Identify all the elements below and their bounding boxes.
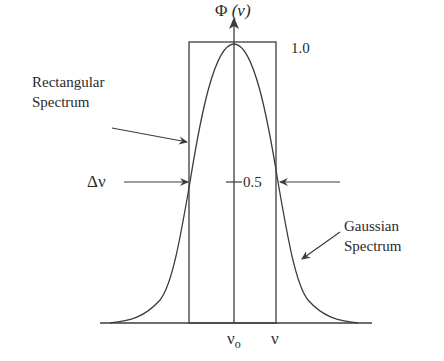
nu-label: ν	[271, 331, 279, 347]
phi-symbol: Φ	[215, 1, 227, 20]
phi-argument: (ν)	[232, 1, 251, 20]
rectangular-spectrum-label: Rectangular Spectrum	[32, 72, 104, 112]
gaussian-pointer-arrow	[302, 232, 340, 259]
diagram-canvas	[0, 0, 444, 361]
rectangular-label-line1: Rectangular	[32, 72, 104, 92]
delta-nu-label: Δν	[87, 174, 106, 190]
gaussian-label-line1: Gaussian	[344, 216, 402, 236]
nu-zero-base: ν	[227, 329, 235, 348]
gaussian-spectrum-label: Gaussian Spectrum	[344, 216, 402, 256]
rectangular-pointer-arrow	[112, 128, 187, 142]
half-max-label: 0.5	[243, 174, 262, 190]
nu-zero-subscript: o	[235, 337, 241, 351]
rectangular-label-line2: Spectrum	[32, 92, 104, 112]
nu-zero-label: νo	[227, 331, 241, 352]
gaussian-label-line2: Spectrum	[344, 236, 402, 256]
spectrum-diagram: Φ (ν) 1.0 Rectangular Spectrum Δν 0.5 Ga…	[0, 0, 444, 361]
peak-value-label: 1.0	[291, 40, 310, 56]
phi-axis-label: Φ (ν)	[215, 2, 251, 20]
